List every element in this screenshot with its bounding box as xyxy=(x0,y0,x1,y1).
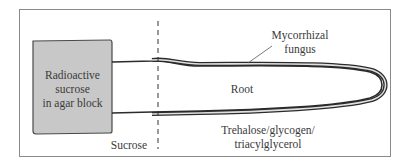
root-label: Root xyxy=(222,82,262,96)
agar-block-label: Radioactive sucrose in agar block xyxy=(33,68,112,110)
root-label-text: Root xyxy=(231,83,253,95)
agar-label-line-2: sucrose xyxy=(33,82,112,96)
products-label-line-2: triacylglycerol xyxy=(218,137,318,151)
fungus-label-line-1: Mycorrhizal xyxy=(265,28,335,42)
products-label: Trehalose/glycogen/ triacylglycerol xyxy=(218,123,318,151)
products-label-line-1: Trehalose/glycogen/ xyxy=(218,123,318,137)
sucrose-label: Sucrose xyxy=(104,138,154,152)
fungus-label: Mycorrhizal fungus xyxy=(265,28,335,56)
agar-label-line-3: in agar block xyxy=(33,96,112,110)
agar-label-line-1: Radioactive xyxy=(33,68,112,82)
fungus-label-line-2: fungus xyxy=(265,42,335,56)
sucrose-label-text: Sucrose xyxy=(111,139,147,151)
